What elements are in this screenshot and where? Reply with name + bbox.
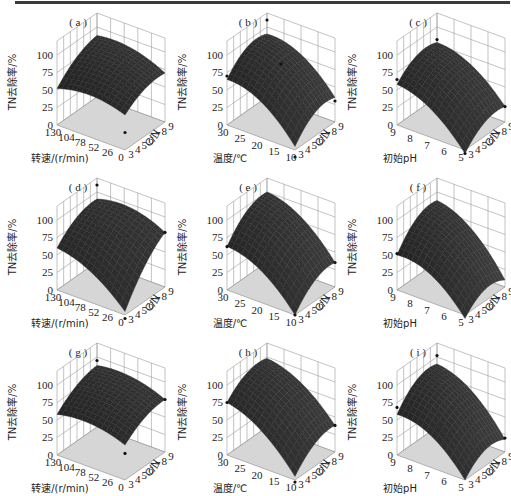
z-axis-label: TN去除率/% xyxy=(6,384,18,441)
x-tick-label: 26 xyxy=(102,476,114,488)
y-tick-label: 4 xyxy=(305,143,311,155)
design-point xyxy=(163,231,166,234)
x-tick-label: 26 xyxy=(102,311,114,323)
z-tick-label: 25 xyxy=(42,101,54,113)
z-tick-label: 25 xyxy=(382,266,394,278)
x-tick-label: 8 xyxy=(407,297,413,309)
surface-panel-h: ( h )025507510030252015103456789温度/℃C/NT… xyxy=(170,330,340,496)
x-tick-label: 5 xyxy=(458,151,464,163)
design-point xyxy=(123,317,126,320)
y-tick-label: 4 xyxy=(305,308,311,320)
z-tick-label: 100 xyxy=(37,379,54,391)
x-axis-label: 初始pH xyxy=(383,317,417,329)
z-tick-label: 50 xyxy=(382,414,394,426)
z-tick-label: 75 xyxy=(382,396,394,408)
x-tick-label: 8 xyxy=(407,462,413,474)
z-tick-label: 50 xyxy=(42,84,54,96)
z-tick-label: 100 xyxy=(377,379,394,391)
x-tick-label: 7 xyxy=(424,139,430,151)
x-tick-label: 0 xyxy=(118,316,124,328)
x-tick-label: 6 xyxy=(441,145,447,157)
surface-panel-b: ( b )025507510030252015103456789温度/℃C/NT… xyxy=(170,0,340,166)
x-axis-label: 转速/(r/min) xyxy=(31,152,89,164)
x-tick-label: 30 xyxy=(218,291,230,303)
y-tick-label: 3 xyxy=(128,478,134,490)
y-tick-label: 3 xyxy=(298,478,304,490)
z-axis-label: TN去除率/% xyxy=(176,54,188,111)
z-tick-label: 100 xyxy=(37,214,54,226)
surface-panel-g: ( g )025507510013010478522603456789转速/(r… xyxy=(0,330,170,496)
x-tick-label: 15 xyxy=(269,145,281,157)
x-tick-label: 6 xyxy=(441,310,447,322)
x-tick-label: 26 xyxy=(102,146,114,158)
z-tick-label: 25 xyxy=(382,101,394,113)
x-tick-label: 30 xyxy=(218,126,230,138)
y-tick-label: 3 xyxy=(468,148,474,160)
z-tick-label: 25 xyxy=(212,266,224,278)
z-tick-label: 50 xyxy=(382,84,394,96)
z-tick-label: 50 xyxy=(42,249,54,261)
y-tick-label: 8 xyxy=(332,290,338,302)
z-axis-label: TN去除率/% xyxy=(176,384,188,441)
z-tick-label: 75 xyxy=(42,66,54,78)
x-tick-label: 20 xyxy=(252,469,264,481)
x-axis-label: 转速/(r/min) xyxy=(31,317,89,329)
y-tick-label: 8 xyxy=(332,455,338,467)
surface-panel-i: ( i )0255075100987653456789初始pHC/NTN去除率/… xyxy=(340,330,510,496)
x-tick-label: 7 xyxy=(424,469,430,481)
design-point xyxy=(435,38,438,41)
panel-label: ( a ) xyxy=(69,16,87,29)
y-tick-label: 3 xyxy=(298,313,304,325)
x-tick-label: 30 xyxy=(218,456,230,468)
x-tick-label: 20 xyxy=(252,304,264,316)
surface-panel-f: ( f )0255075100987653456789初始pHC/NTN去除率/… xyxy=(340,165,510,331)
z-tick-label: 50 xyxy=(42,414,54,426)
z-axis-label: TN去除率/% xyxy=(346,384,358,441)
x-tick-label: 6 xyxy=(441,475,447,487)
z-axis-label: TN去除率/% xyxy=(176,219,188,276)
x-tick-label: 5 xyxy=(458,316,464,328)
y-tick-label: 4 xyxy=(135,143,141,155)
x-tick-label: 104 xyxy=(58,461,75,473)
z-tick-label: 75 xyxy=(382,66,394,78)
y-tick-label: 3 xyxy=(468,313,474,325)
response-surface xyxy=(57,35,165,115)
design-point xyxy=(95,359,98,362)
panel-label: ( e ) xyxy=(239,181,257,194)
x-tick-label: 78 xyxy=(75,466,87,478)
response-surface xyxy=(57,365,165,445)
y-tick-label: 8 xyxy=(502,455,508,467)
x-tick-label: 7 xyxy=(424,304,430,316)
x-tick-label: 9 xyxy=(390,291,396,303)
design-point xyxy=(225,245,228,248)
design-point xyxy=(123,131,126,134)
y-tick-label: 3 xyxy=(298,148,304,160)
x-tick-label: 10 xyxy=(286,151,298,163)
y-tick-label: 4 xyxy=(475,308,481,320)
surface-plot-grid: ( a )025507510013010478522603456789转速/(r… xyxy=(0,0,511,496)
panel-label: ( b ) xyxy=(239,16,258,29)
z-tick-label: 50 xyxy=(382,249,394,261)
y-tick-label: 8 xyxy=(162,290,168,302)
x-tick-label: 78 xyxy=(75,301,87,313)
z-tick-label: 75 xyxy=(212,66,224,78)
z-tick-label: 25 xyxy=(212,431,224,443)
x-tick-label: 0 xyxy=(118,481,124,493)
design-point xyxy=(395,252,398,255)
z-tick-label: 100 xyxy=(37,49,54,61)
panel-label: ( c ) xyxy=(409,16,427,29)
x-tick-label: 52 xyxy=(88,306,99,318)
x-axis-label: 初始pH xyxy=(383,152,417,164)
y-tick-label: 3 xyxy=(128,148,134,160)
y-tick-label: 3 xyxy=(468,478,474,490)
x-tick-label: 25 xyxy=(235,462,247,474)
x-tick-label: 10 xyxy=(286,481,298,493)
z-tick-label: 100 xyxy=(377,49,394,61)
design-point xyxy=(503,105,506,108)
z-tick-label: 100 xyxy=(207,214,224,226)
x-tick-label: 8 xyxy=(407,132,413,144)
x-tick-label: 25 xyxy=(235,297,247,309)
y-tick-label: 8 xyxy=(162,455,168,467)
surface-panel-c: ( c )0255075100987653456789初始pHC/NTN去除率/… xyxy=(340,0,510,166)
z-tick-label: 75 xyxy=(42,396,54,408)
